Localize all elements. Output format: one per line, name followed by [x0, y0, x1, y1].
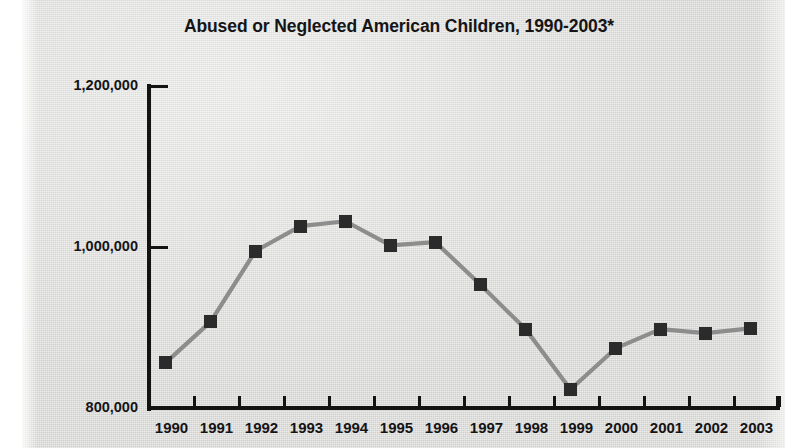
data-point-marker	[384, 239, 397, 252]
data-point-marker	[294, 220, 307, 233]
data-point-marker	[654, 323, 667, 336]
data-point-marker	[249, 245, 262, 258]
data-point-marker	[564, 383, 577, 396]
chart-page: Abused or Neglected American Children, 1…	[0, 0, 798, 448]
data-point-marker	[429, 236, 442, 249]
data-point-marker	[699, 327, 712, 340]
series-line-layer	[0, 0, 798, 448]
data-point-marker	[519, 323, 532, 336]
data-point-marker	[609, 342, 622, 355]
data-point-marker	[474, 278, 487, 291]
data-point-marker	[204, 315, 217, 328]
data-point-marker	[339, 215, 352, 228]
data-point-marker	[159, 356, 172, 369]
data-point-marker	[744, 322, 757, 335]
